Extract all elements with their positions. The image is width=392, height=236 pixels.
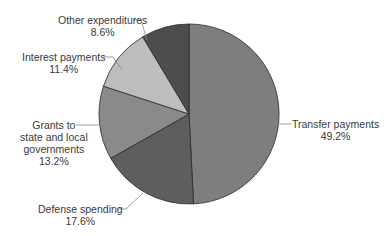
label-interest: Interest payments 11.4% [22, 51, 105, 75]
label-other: Other expenditures 8.6% [58, 14, 147, 38]
label-grants: Grants to state and local governments 13… [20, 119, 88, 167]
pie-slice-transfer-payments [189, 24, 279, 204]
label-transfer: Transfer payments 49.2% [292, 118, 379, 142]
label-defense: Defense spending 17.6% [38, 203, 123, 227]
